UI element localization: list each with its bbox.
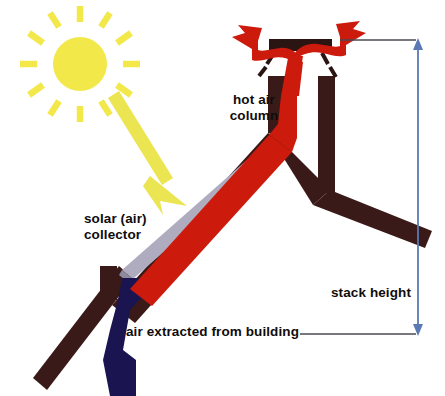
chimney-wall-right <box>318 76 335 196</box>
label-solar-collector: solar (air) collector <box>84 211 147 243</box>
stack-height-dimension <box>413 38 423 336</box>
label-air-extracted-from-building: air extracted from building <box>126 324 299 340</box>
exhaust-arrow-junction <box>288 56 303 68</box>
label-stack-height: stack height <box>331 285 411 301</box>
roof-slope-right <box>313 190 432 248</box>
solar-chimney-diagram: hot air column solar (air) collector air… <box>0 0 445 396</box>
label-hot-air-column: hot air column <box>218 92 290 124</box>
sun-disc <box>53 37 107 91</box>
roof-jog-left <box>100 266 117 300</box>
solar-ray-arrow-icon <box>108 91 187 215</box>
